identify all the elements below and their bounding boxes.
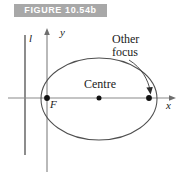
focus-right-dot xyxy=(146,95,152,101)
y-axis-arrowhead xyxy=(44,28,50,35)
directrix-label: l xyxy=(29,33,32,45)
centre-dot xyxy=(97,96,102,101)
centre-label: Centre xyxy=(84,78,116,91)
focus-f-label: F xyxy=(50,99,57,111)
other-focus-label-line1: Other xyxy=(112,33,139,46)
other-focus-label-line2: focus xyxy=(112,46,139,59)
x-axis-label: x xyxy=(166,100,171,112)
y-axis-label: y xyxy=(60,27,65,39)
figure-drawing xyxy=(0,0,184,185)
other-focus-label: Other focus xyxy=(112,33,139,58)
other-focus-arrowhead xyxy=(146,87,152,95)
figure-container: FIGURE 10.54b Other focus Centre F x y l xyxy=(0,0,184,185)
